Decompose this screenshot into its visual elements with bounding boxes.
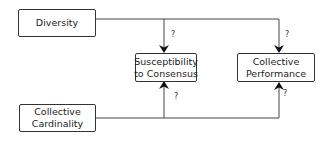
edge-label-cardinality-susceptibility: ?: [174, 92, 178, 101]
node-collective-performance: Collective Performance: [237, 53, 315, 82]
node-label: Diversity: [36, 17, 78, 29]
node-label: Collective Cardinality: [32, 106, 83, 130]
node-diversity: Diversity: [18, 9, 96, 37]
node-label: Collective Performance: [246, 56, 306, 80]
edge-label-diversity-performance: ?: [285, 30, 289, 39]
node-label: Susceptibility to Consensus: [134, 56, 198, 80]
edge-label-cardinality-performance: ?: [283, 89, 287, 98]
node-susceptibility-to-consensus: Susceptibility to Consensus: [135, 53, 197, 82]
node-collective-cardinality: Collective Cardinality: [19, 104, 96, 132]
edge-label-diversity-susceptibility: ?: [171, 30, 175, 39]
